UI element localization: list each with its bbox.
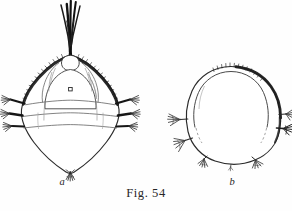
seta-left-3 bbox=[3, 123, 24, 132]
seta-b-ventral-mid bbox=[229, 165, 233, 171]
specimen-b-group bbox=[168, 63, 292, 171]
plume-group bbox=[61, 1, 80, 58]
right-setae-group bbox=[116, 96, 140, 132]
seta-left-2 bbox=[0, 110, 22, 119]
seta-right-2 bbox=[118, 110, 140, 119]
seta-right-3 bbox=[117, 123, 138, 132]
seta-right-1 bbox=[116, 96, 139, 105]
figure-plate: a b Fig. 54 bbox=[0, 0, 292, 211]
seta-b-ventral-left bbox=[198, 156, 208, 167]
seta-left-1 bbox=[1, 96, 24, 105]
head-capsule bbox=[62, 55, 80, 70]
eye-spot bbox=[69, 88, 73, 91]
figure-caption: Fig. 54 bbox=[0, 186, 292, 201]
figure-illustration bbox=[0, 0, 292, 211]
specimen-a-group bbox=[0, 1, 140, 181]
seta-b-left-1 bbox=[168, 114, 188, 126]
seta-b-left-2 bbox=[174, 138, 193, 152]
